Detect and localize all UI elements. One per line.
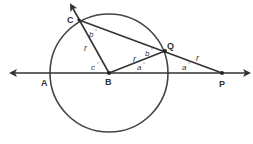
angle-label-a-at-P: a (182, 63, 187, 72)
label-Q: Q (167, 41, 174, 51)
label-C: C (67, 15, 74, 25)
label-r-QP: r (196, 53, 200, 63)
degree-c-at-B: ° (97, 61, 99, 67)
degree-b-at-C: ° (95, 28, 97, 34)
label-A: A (41, 78, 48, 88)
angle-label-a-at-B: a (137, 63, 142, 72)
degree-a-at-B: ° (143, 61, 145, 67)
geometry-diagram: A B C Q P r r r b ° b ° c ° a ° a ° (0, 0, 253, 144)
label-P: P (219, 79, 225, 89)
point-B (107, 71, 111, 75)
degree-b-at-Q: ° (151, 47, 153, 53)
angle-label-b-at-Q: b (145, 49, 150, 58)
degree-a-at-P: ° (188, 61, 190, 67)
label-B: B (105, 77, 112, 87)
ray-BC (71, 5, 109, 73)
label-r-BC: r (84, 43, 88, 53)
angle-label-c-at-B: c (91, 63, 95, 72)
point-P (220, 71, 224, 75)
point-C (77, 18, 80, 21)
angle-label-b-at-C: b (89, 30, 94, 39)
